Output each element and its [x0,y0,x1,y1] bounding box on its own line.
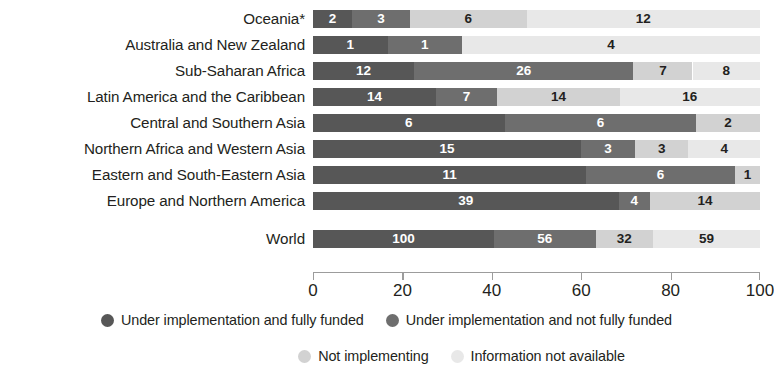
bar-track: 1471416 [313,88,760,106]
legend-label: Under implementation and not fully funde… [406,312,672,328]
bar-track: 23612 [313,10,760,28]
bar-segment[interactable] [313,230,494,248]
bar-track: 100563259 [313,230,760,248]
bar-segment[interactable] [581,140,635,158]
bar-segment[interactable] [586,166,735,184]
row-label: Central and Southern Asia [5,112,305,134]
bar-segment[interactable] [620,88,760,106]
legend-row-bottom: Not implementingInformation not availabl… [0,348,773,364]
row-label: Europe and Northern America [5,190,305,212]
bar-segment[interactable] [497,88,619,106]
chart-row: Australia and New Zealand114 [0,34,773,56]
bar-segment[interactable] [735,166,760,184]
axis-tick [671,273,672,280]
chart-row: Eastern and South-Eastern Asia1161 [0,164,773,186]
chart-row: Latin America and the Caribbean1471416 [0,86,773,108]
x-axis-tick-labels: 020406080100 [313,281,760,305]
axis-tick [581,273,582,280]
axis-tick-label: 40 [482,281,501,301]
legend-row-top: Under implementation and fully fundedUnd… [0,312,773,328]
bar-segment[interactable] [313,140,581,158]
bar-segment[interactable] [693,62,760,80]
axis-tick-label: 0 [308,281,317,301]
axis-tick [313,273,314,280]
axis-tick-label: 20 [393,281,412,301]
bar-track: 15334 [313,140,760,158]
bar-segment[interactable] [388,36,462,54]
axis-tick [759,273,760,280]
chart-row: Central and Southern Asia662 [0,112,773,134]
bar-segment[interactable] [635,140,689,158]
axis-tick [402,273,403,280]
bar-segment[interactable] [414,62,633,80]
bar-segment[interactable] [596,230,654,248]
legend-label: Not implementing [318,348,428,364]
bar-segment[interactable] [527,10,760,28]
legend-label: Information not available [471,348,625,364]
legend-item[interactable]: Under implementation and not fully funde… [386,312,672,328]
chart-row: Europe and Northern America39414 [0,190,773,212]
bar-segment[interactable] [313,10,352,28]
bar-segment[interactable] [313,192,619,210]
chart-row: Sub-Saharan Africa122678 [0,60,773,82]
row-label: Northern Africa and Western Asia [5,138,305,160]
bar-segment[interactable] [313,36,388,54]
bar-segment[interactable] [619,192,650,210]
row-label: Australia and New Zealand [5,34,305,56]
legend-item[interactable]: Not implementing [298,348,428,364]
bar-segment[interactable] [313,166,586,184]
chart-row: World100563259 [0,228,773,250]
row-label: World [5,228,305,250]
bar-segment[interactable] [313,88,436,106]
plot-area: Oceania*23612Australia and New Zealand11… [0,8,773,270]
bar-segment[interactable] [313,114,505,132]
axis-tick-label: 100 [746,281,774,301]
row-label: Oceania* [5,8,305,30]
bar-segment[interactable] [313,62,414,80]
legend-swatch-circle-icon [101,314,114,327]
bar-track: 662 [313,114,760,132]
bar-segment[interactable] [688,140,760,158]
bar-segment[interactable] [505,114,696,132]
row-label: Sub-Saharan Africa [5,60,305,82]
bar-segment[interactable] [436,88,497,106]
legend-item[interactable]: Information not available [451,348,625,364]
bar-segment[interactable] [352,10,410,28]
bar-segment[interactable] [633,62,692,80]
bar-segment[interactable] [696,114,760,132]
bar-track: 1161 [313,166,760,184]
bar-segment[interactable] [650,192,760,210]
bar-track: 114 [313,36,760,54]
legend-swatch-circle-icon [451,350,464,363]
bar-track: 39414 [313,192,760,210]
chart-legend: Under implementation and fully fundedUnd… [0,312,773,392]
axis-tick [492,273,493,280]
chart-row: Northern Africa and Western Asia15334 [0,138,773,160]
chart-row: Oceania*23612 [0,8,773,30]
legend-swatch-circle-icon [298,350,311,363]
row-label: Eastern and South-Eastern Asia [5,164,305,186]
row-label: Latin America and the Caribbean [5,86,305,108]
bar-segment[interactable] [494,230,595,248]
axis-tick-label: 80 [661,281,680,301]
bar-segment[interactable] [653,230,760,248]
legend-item[interactable]: Under implementation and fully funded [101,312,364,328]
legend-label: Under implementation and fully funded [121,312,364,328]
bar-track: 122678 [313,62,760,80]
bar-segment[interactable] [462,36,760,54]
legend-swatch-circle-icon [386,314,399,327]
axis-tick-label: 60 [572,281,591,301]
bar-segment[interactable] [410,10,527,28]
